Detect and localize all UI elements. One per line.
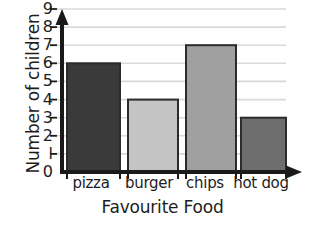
bar-pizza bbox=[67, 63, 120, 172]
x-tick-label-hot-dog: hot dog bbox=[228, 176, 294, 191]
x-tick-label-pizza: pizza bbox=[62, 176, 120, 191]
y-axis-ticks bbox=[50, 9, 57, 154]
bar-series bbox=[67, 45, 286, 172]
bar-burger bbox=[128, 100, 178, 172]
bar-chart: Number of children 0 l 2 3 4 5 6 7 8 9 bbox=[0, 0, 312, 241]
x-axis-title: Favourite Food bbox=[40, 199, 285, 216]
bar-chips bbox=[186, 45, 236, 172]
bar-hot-dog bbox=[241, 118, 286, 172]
x-tick-label-chips: chips bbox=[180, 176, 230, 191]
x-axis-tick-labels: pizza burger chips hot dog bbox=[62, 176, 280, 198]
x-tick-label-burger: burger bbox=[118, 176, 180, 191]
